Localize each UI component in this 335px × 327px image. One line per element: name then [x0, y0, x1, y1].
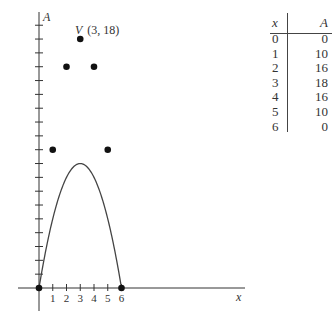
x-tick-label: 6 — [119, 292, 125, 304]
x-tick-label: 4 — [91, 292, 97, 304]
cell-a: 0 — [288, 32, 328, 47]
cell-x: 4 — [270, 90, 288, 105]
cell-a: 16 — [288, 90, 328, 105]
vertex-coordinates: (3, 18) — [87, 23, 119, 37]
x-tick-label: 3 — [78, 292, 84, 304]
cell-a: 10 — [288, 105, 328, 120]
cell-a: 16 — [288, 61, 328, 76]
table-row: 216 — [270, 61, 335, 76]
x-tick-label: 5 — [105, 292, 111, 304]
x-axis-label: x — [235, 290, 242, 304]
cell-x: 0 — [270, 32, 288, 47]
table-vertical-rule — [287, 13, 288, 132]
vertex-letter: V — [75, 23, 84, 37]
table-row: 510 — [270, 105, 335, 120]
header-x: x — [270, 13, 288, 32]
cell-x: 6 — [270, 120, 288, 135]
parabola-curve — [39, 164, 122, 288]
data-point — [49, 146, 56, 153]
cell-a: 10 — [288, 47, 328, 62]
x-tick-label: 2 — [64, 292, 70, 304]
data-point — [63, 63, 70, 70]
data-point — [104, 146, 111, 153]
x-tick-label: 1 — [50, 292, 56, 304]
cell-x: 2 — [270, 61, 288, 76]
cell-x: 1 — [270, 47, 288, 62]
cell-x: 5 — [270, 105, 288, 120]
table-header-rule — [270, 33, 332, 34]
data-point — [91, 63, 98, 70]
table-row: 60 — [270, 120, 335, 135]
cell-x: 3 — [270, 76, 288, 91]
y-axis-label: A — [42, 10, 51, 24]
cell-a: 0 — [288, 120, 328, 135]
cell-a: 18 — [288, 76, 328, 91]
table-header: x A — [270, 13, 335, 32]
data-point — [118, 285, 125, 292]
x-axis-ticks: 123456 — [50, 284, 125, 304]
table-row: 416 — [270, 90, 335, 105]
header-a: A — [288, 13, 328, 32]
table-row: 318 — [270, 76, 335, 91]
data-point — [36, 285, 43, 292]
table-row: 110 — [270, 47, 335, 62]
value-table: x A 00 110 216 318 416 510 60 — [270, 13, 335, 134]
vertex-label: V(3, 18) — [75, 23, 119, 37]
table-row: 00 — [270, 32, 335, 47]
